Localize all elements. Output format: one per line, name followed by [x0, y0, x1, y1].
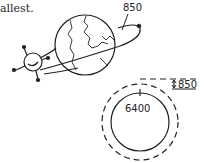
- earth-globe: [55, 15, 115, 75]
- altitude-pointer: [122, 14, 141, 30]
- earth-radius-label: 6400: [125, 104, 150, 114]
- earth-cross-section: [102, 79, 196, 160]
- altitude-label: 850: [178, 80, 197, 90]
- diagram-canvas: [0, 0, 204, 163]
- orbit-altitude-label: 850: [123, 3, 142, 13]
- orbit-ellipse: [40, 25, 140, 74]
- satellite-icon: [13, 46, 50, 82]
